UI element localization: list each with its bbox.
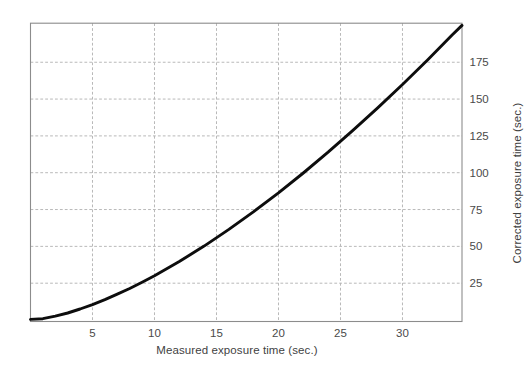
- x-tick-label: 20: [272, 327, 285, 339]
- y-tick-label: 175: [470, 56, 489, 68]
- x-tick-label: 25: [334, 327, 347, 339]
- y-tick-label: 150: [470, 93, 489, 105]
- x-tick-label: 30: [396, 327, 409, 339]
- y-axis-title: Corrected exposure time (sec.): [511, 83, 525, 283]
- x-tick-label: 5: [89, 327, 95, 339]
- y-tick-label: 125: [470, 130, 489, 142]
- x-tick-label: 10: [148, 327, 161, 339]
- y-tick-label: 25: [470, 277, 483, 289]
- y-tick-label: 100: [470, 167, 489, 179]
- y-tick-label: 50: [470, 240, 483, 252]
- plot-area: 51015202530255075100125150175: [0, 0, 532, 381]
- x-axis-title: Measured exposure time (sec.): [87, 344, 387, 356]
- chart-figure: 51015202530255075100125150175 Measured e…: [0, 0, 532, 381]
- x-tick-label: 15: [210, 327, 223, 339]
- y-tick-label: 75: [470, 204, 483, 216]
